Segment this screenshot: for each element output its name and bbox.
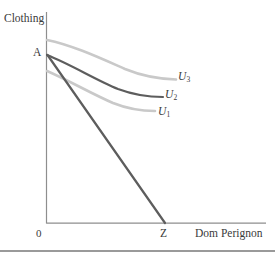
curve-label-u1: U1 xyxy=(158,106,170,118)
x-axis-label: Dom Perignon xyxy=(195,228,262,240)
indifference-curve-u3 xyxy=(47,40,176,80)
indifference-curve-figure: Clothing Dom Perignon 0 A Z U3 U2 U1 xyxy=(0,0,275,255)
curve-label-u1-base: U xyxy=(158,105,166,117)
curve-label-u2: U2 xyxy=(165,89,177,101)
x-intercept-label-z: Z xyxy=(160,228,167,240)
endowment-point-label-a: A xyxy=(33,47,41,59)
chart-canvas xyxy=(0,0,275,255)
y-axis-label: Clothing xyxy=(4,13,44,25)
curve-label-u2-subscript: 2 xyxy=(174,93,178,102)
budget-line xyxy=(48,55,166,223)
origin-label: 0 xyxy=(36,228,42,239)
curve-label-u2-base: U xyxy=(165,88,173,100)
curve-label-u1-subscript: 1 xyxy=(167,110,171,119)
curve-label-u3-subscript: 3 xyxy=(187,75,191,84)
curve-label-u3: U3 xyxy=(178,71,190,83)
bottom-divider xyxy=(0,250,275,252)
curve-label-u3-base: U xyxy=(178,70,186,82)
